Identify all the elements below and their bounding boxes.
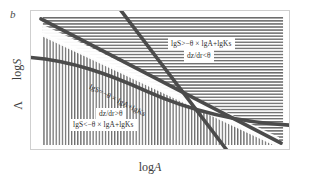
y-axis-lambda-symbol: Λ: [11, 94, 26, 118]
annotation-lower-inequality: lgS<−θ × lgA+lgKs: [70, 119, 137, 131]
y-axis-variable: S: [10, 59, 24, 65]
figure-panel-b: b logS Λ logA: [0, 0, 311, 183]
annotation-lower-gradient: dz/dr>θ: [96, 108, 126, 120]
plot-frame: [30, 10, 290, 150]
panel-label: b: [10, 8, 16, 20]
annotation-upper-gradient: dz/dr<θ: [184, 50, 214, 62]
x-axis-label: logA: [105, 160, 195, 175]
x-axis-variable: A: [154, 160, 161, 174]
y-axis-label: logS: [10, 40, 25, 100]
annotation-upper-inequality: lgS>−θ × lgA+lgKs: [168, 38, 235, 50]
